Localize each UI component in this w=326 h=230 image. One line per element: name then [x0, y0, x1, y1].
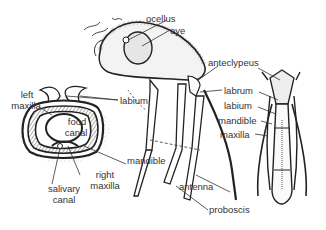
label-proboscis: proboscis — [209, 205, 250, 215]
label-labium-right: labium — [224, 101, 252, 111]
salivary-canal-lumen — [58, 144, 63, 149]
proboscis-shaft — [164, 84, 186, 184]
maxilla-left-stylet — [258, 104, 272, 196]
label-labium-left: labium — [120, 96, 148, 106]
label-salivary-canal-line2: canal — [48, 195, 80, 205]
label-eye: eye — [170, 26, 185, 36]
label-mandible-right: mandible — [218, 116, 257, 126]
label-left-maxilla-line1: left — [12, 90, 42, 100]
label-maxilla: maxilla — [220, 130, 250, 140]
label-anteclypeus: anteclypeus — [208, 58, 259, 68]
labrum-frontal — [270, 70, 294, 104]
label-food-canal-line2: canal — [60, 128, 92, 138]
leg-front — [146, 80, 158, 150]
label-right-maxilla-line2: maxilla — [86, 181, 124, 191]
label-left-maxilla-line2: maxilla — [8, 101, 44, 111]
maxilla-right-stylet — [292, 104, 306, 196]
mouthparts-diagram: ocellus eye anteclypeus labrum labium ma… — [0, 0, 326, 230]
label-mandible-mid: mandible — [127, 156, 166, 166]
label-labrum: labrum — [224, 86, 253, 96]
label-salivary-canal-line1: salivary — [44, 184, 84, 194]
label-right-maxilla-line1: right — [90, 170, 120, 180]
compound-eye — [124, 32, 152, 64]
label-antenna: antenna — [179, 182, 213, 192]
label-food-canal-line1: food — [62, 117, 92, 127]
label-ocellus: ocellus — [146, 14, 176, 24]
stylets-frontal — [255, 68, 306, 204]
